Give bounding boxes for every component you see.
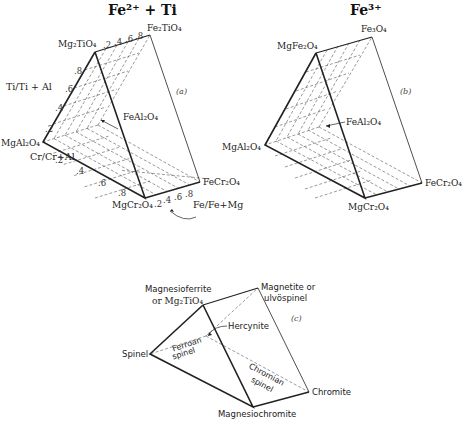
cr-tick-4: .8 (118, 188, 126, 198)
panel-b-tag: (b) (400, 87, 411, 96)
panel-c-tag: (c) (291, 314, 302, 323)
panel-a-tag: (a) (176, 87, 187, 96)
ti-tick-1: .2 (45, 124, 53, 134)
label-chromite: Chromite (312, 388, 351, 397)
label-mgcr2o4-b: MgCr₂O₄ (348, 203, 389, 212)
label-fecr2o4-a: FeCr₂O₄ (203, 178, 240, 187)
label-mg2tio4-c: or Mg₂TiO₄ (152, 297, 200, 306)
label-mgal2o4-a: MgAl₂O₄ (1, 139, 40, 148)
label-fecr2o4-b: FeCr₂O₄ (425, 179, 462, 188)
cr-tick-2: .4 (76, 166, 84, 176)
fe-top-tick-2: .4 (114, 37, 122, 47)
label-magnesioferrite: Magnesioferrite (145, 285, 200, 294)
label-magnesiochromite: Magnesiochromite (218, 410, 296, 419)
fe-top-tick-3: .6 (125, 34, 133, 44)
label-mgfe2o4: MgFe₂O₄ (277, 42, 318, 51)
spinel-prism-diagrams (0, 0, 464, 425)
label-mgcr2o4-a: MgCr₂O₄ (112, 201, 153, 210)
panel-a-title: Fe²⁺ + Ti (108, 2, 177, 18)
label-ulvospinel: ulvöspinel (264, 294, 307, 303)
cr-tick-3: .6 (98, 178, 106, 188)
cr-axis-label: Cr/Cr+Al (30, 152, 75, 162)
label-feal2o4-a: FeAl₂O₄ (123, 113, 158, 122)
ti-tick-4: .8 (74, 66, 82, 76)
label-spinel: Spinel (122, 350, 148, 359)
ti-axis-label: Ti/Ti + Al (6, 82, 52, 92)
prism-b (265, 37, 422, 198)
label-magnetite: Magnetite or (261, 283, 315, 292)
fe-bottom-tick-3: .6 (174, 192, 182, 202)
panel-b-title: Fe³⁺ (350, 2, 382, 18)
ti-tick-3: .6 (65, 84, 73, 94)
label-mg2tio4: Mg₂TiO₄ (58, 40, 96, 49)
ti-tick-2: .4 (55, 103, 63, 113)
label-hercynite: Hercynite (228, 322, 269, 331)
label-feal2o4-b: FeAl₂O₄ (346, 118, 381, 127)
label-mgal2o4-b: MgAl₂O₄ (222, 143, 261, 152)
fe-axis-label: Fe/Fe+Mg (193, 200, 243, 210)
fe-bottom-tick-2: .4 (163, 195, 171, 205)
label-fe3o4: Fe₃O₄ (361, 25, 387, 34)
fe-bottom-tick-4: .8 (185, 189, 193, 199)
fe-top-tick-1: .2 (103, 40, 111, 50)
fe-top-tick-4: .8 (135, 31, 143, 41)
label-fe2tio4: Fe₂TiO₄ (147, 24, 182, 33)
cr-tick-1: .2 (55, 155, 63, 165)
fe-bottom-tick-1: .2 (154, 199, 162, 209)
